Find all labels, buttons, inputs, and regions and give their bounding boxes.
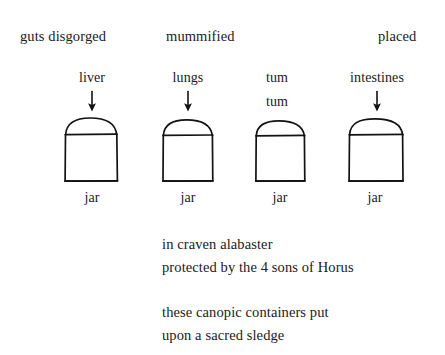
canopic-jar-figure-1 xyxy=(63,116,121,186)
jar-label-1: jar xyxy=(84,191,99,205)
canopic-jar-figure-4 xyxy=(347,117,407,186)
canopic-jar-figure-2 xyxy=(161,118,215,186)
down-arrow-icon-intestines xyxy=(370,90,384,114)
organ-label-tum-first: tum xyxy=(266,71,288,85)
down-arrow-icon-lungs xyxy=(181,90,195,114)
jar-label-2: jar xyxy=(180,191,195,205)
verse-line-3: these canopic containers put xyxy=(162,305,329,320)
verse-line-4: upon a sacred sledge xyxy=(162,328,284,343)
jar-label-4: jar xyxy=(367,191,382,205)
organ-label-tum-second: tum xyxy=(266,95,288,109)
canopic-jar-figure-3 xyxy=(254,119,307,186)
header-mummified: mummified xyxy=(166,29,235,44)
jar-label-3: jar xyxy=(272,191,287,205)
down-arrow-icon-liver xyxy=(85,90,99,114)
organ-label-liver: liver xyxy=(79,71,105,85)
poem-diagram-canvas: guts disgorged mummified placed liver ja… xyxy=(0,0,445,355)
header-placed: placed xyxy=(378,29,416,44)
organ-label-lungs: lungs xyxy=(173,71,204,85)
verse-line-2: protected by the 4 sons of Horus xyxy=(162,260,354,275)
header-guts-disgorged: guts disgorged xyxy=(20,29,106,44)
verse-line-1: in craven alabaster xyxy=(162,237,273,252)
organ-label-intestines: intestines xyxy=(350,71,404,85)
